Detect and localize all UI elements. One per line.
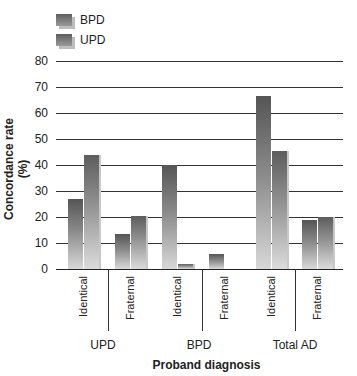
x-tick-label: Identical bbox=[171, 276, 185, 336]
legend-label: BPD bbox=[80, 13, 105, 27]
x-tick-label: Identical bbox=[265, 276, 279, 336]
legend-swatch-bpd bbox=[56, 14, 72, 26]
bar-upd bbox=[272, 151, 287, 269]
y-tick-label: 80 bbox=[22, 54, 48, 68]
gridline bbox=[56, 139, 343, 140]
bar-bpd bbox=[209, 254, 224, 269]
group-separator bbox=[108, 269, 109, 331]
bar-bpd bbox=[162, 165, 177, 269]
x-axis-line bbox=[56, 269, 343, 270]
group-label-upd: UPD bbox=[68, 338, 138, 352]
bar-upd bbox=[84, 155, 99, 269]
group-label-bpd: BPD bbox=[164, 338, 234, 352]
legend-item-bpd: BPD bbox=[56, 10, 105, 30]
gridline bbox=[56, 113, 343, 114]
x-tick-label: Fraternal bbox=[218, 276, 232, 336]
bar-upd bbox=[318, 217, 333, 269]
bar-upd bbox=[178, 264, 193, 269]
group-label-total-ad: Total AD bbox=[260, 338, 330, 352]
y-tick-label: 20 bbox=[22, 210, 48, 224]
bar-bpd bbox=[302, 220, 317, 269]
x-tick-label: Identical bbox=[77, 276, 91, 336]
group-separator bbox=[202, 269, 203, 331]
y-tick-label: 60 bbox=[22, 106, 48, 120]
legend: BPD UPD bbox=[56, 10, 105, 50]
legend-swatch-upd bbox=[56, 34, 72, 46]
gridline bbox=[56, 217, 343, 218]
y-tick-label: 30 bbox=[22, 184, 48, 198]
legend-item-upd: UPD bbox=[56, 30, 105, 50]
gridline bbox=[56, 165, 343, 166]
bar-bpd bbox=[256, 96, 271, 269]
gridline bbox=[56, 87, 343, 88]
bar-upd bbox=[131, 216, 146, 269]
x-tick-label: Fraternal bbox=[124, 276, 138, 336]
y-tick-label: 50 bbox=[22, 132, 48, 146]
gridline bbox=[56, 191, 343, 192]
legend-label: UPD bbox=[80, 33, 105, 47]
group-separator bbox=[295, 269, 296, 331]
y-tick-label: 10 bbox=[22, 236, 48, 250]
gridline bbox=[56, 243, 343, 244]
y-tick-label: 70 bbox=[22, 80, 48, 94]
bar-bpd bbox=[115, 234, 130, 269]
y-tick-label: 40 bbox=[22, 158, 48, 172]
bar-bpd bbox=[68, 199, 83, 269]
x-axis-label: Proband diagnosis bbox=[0, 358, 357, 372]
x-tick-label: Fraternal bbox=[311, 276, 325, 336]
gridline bbox=[56, 61, 343, 62]
y-tick-label: 0 bbox=[22, 262, 48, 276]
